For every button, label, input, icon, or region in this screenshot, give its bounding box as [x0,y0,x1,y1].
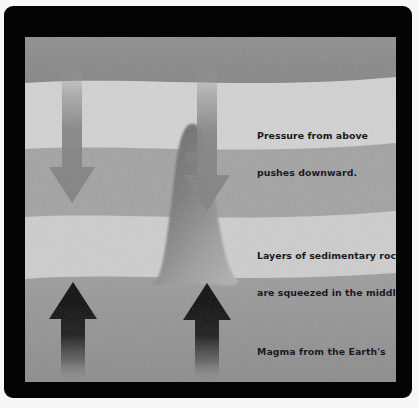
caption-pressure-line-2: pushes downward. [257,167,368,179]
caption-layers-line-1: Layers of sedimentary rock [257,250,396,262]
caption-layers-of-sedimentary-rock: Layers of sedimentary rock are squeezed … [257,226,396,324]
caption-layers-line-2: are squeezed in the middle. [257,287,396,299]
caption-magma-from-earths-crust: Magma from the Earth's crust pushes upwa… [257,322,386,382]
geology-cross-section-illustration: Pressure from above pushes downward. Lay… [25,37,396,382]
caption-pressure-line-1: Pressure from above [257,130,368,142]
page-root: Pressure from above pushes downward. Lay… [0,0,419,408]
caption-pressure-from-above: Pressure from above pushes downward. [257,106,368,204]
caption-magma-line-1: Magma from the Earth's [257,346,386,358]
photo-frame: Pressure from above pushes downward. Lay… [4,6,412,398]
